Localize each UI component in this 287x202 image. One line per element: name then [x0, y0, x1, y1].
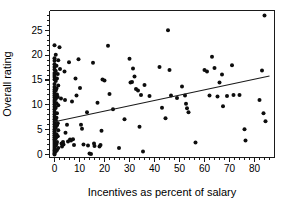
data-point [72, 143, 76, 147]
data-point [141, 150, 145, 154]
data-point [103, 79, 107, 83]
data-point [225, 94, 229, 98]
x-tick-label: 60 [199, 163, 211, 174]
data-point [230, 63, 234, 67]
data-point [216, 94, 220, 98]
data-point [54, 53, 58, 57]
x-axis-title: Incentives as percent of salary [88, 186, 237, 198]
data-points-layer [53, 13, 268, 156]
data-point [168, 68, 172, 72]
data-point [238, 93, 242, 97]
data-point [55, 64, 59, 68]
data-point [86, 144, 90, 148]
data-point [158, 65, 162, 69]
y-tick-label: 20 [31, 49, 43, 60]
data-point [106, 44, 110, 48]
data-point [56, 83, 60, 87]
data-point [260, 69, 264, 73]
data-point [128, 57, 132, 61]
data-point [82, 143, 86, 147]
data-point [89, 152, 93, 156]
data-point [79, 123, 83, 127]
x-tick-label: 70 [224, 163, 236, 174]
scatter-plot-figure: 010203040506070800510152025 Incentives a… [0, 0, 287, 202]
data-point [184, 102, 188, 106]
data-point [77, 57, 81, 61]
data-point [56, 58, 60, 62]
y-axis-title: Overall rating [1, 51, 13, 116]
trendline-layer [55, 76, 270, 122]
data-point [67, 60, 71, 64]
data-point [71, 137, 75, 141]
data-point [58, 67, 62, 71]
data-point [108, 92, 112, 96]
data-point [208, 93, 212, 97]
data-point [123, 117, 127, 121]
data-point [258, 98, 262, 102]
data-point [55, 116, 59, 120]
data-point [55, 111, 59, 115]
scatter-plot-canvas: 010203040506070800510152025 Incentives a… [0, 0, 287, 202]
x-tick-label: 30 [124, 163, 136, 174]
data-point [70, 99, 74, 103]
data-point [75, 93, 79, 97]
data-point [58, 45, 62, 49]
data-point [221, 104, 225, 108]
x-tick-label: 10 [74, 163, 86, 174]
data-point [130, 80, 134, 84]
data-point [263, 13, 267, 17]
data-point [85, 110, 89, 114]
data-point [194, 141, 198, 145]
data-point [160, 106, 164, 110]
data-point [63, 98, 67, 102]
data-point [213, 66, 217, 70]
data-point [164, 116, 168, 120]
data-point [63, 70, 67, 74]
data-point [131, 67, 135, 71]
data-point [55, 140, 59, 144]
data-point [138, 125, 142, 129]
plot-frame [50, 11, 275, 158]
data-point [143, 83, 147, 87]
data-point [96, 101, 100, 105]
data-point [117, 146, 121, 150]
data-point [62, 143, 66, 147]
data-point [53, 43, 57, 47]
data-point [55, 77, 59, 81]
data-point [53, 59, 57, 63]
data-point [262, 111, 266, 115]
y-tick-label: 5 [37, 124, 43, 135]
data-point [205, 70, 209, 74]
data-point [80, 127, 84, 131]
data-point [78, 86, 82, 90]
data-point [136, 88, 140, 92]
data-point [166, 28, 170, 32]
data-point [99, 143, 103, 147]
data-point [74, 77, 78, 81]
data-point [56, 103, 60, 107]
data-point [218, 81, 222, 85]
data-point [100, 129, 104, 133]
x-tick-label: 0 [52, 163, 58, 174]
data-point [180, 84, 184, 88]
data-point [185, 106, 189, 110]
x-tick-label: 40 [149, 163, 161, 174]
y-tick-label: 25 [31, 25, 43, 36]
x-tick-label: 20 [99, 163, 111, 174]
x-tick-label: 80 [249, 163, 261, 174]
data-point [210, 55, 214, 59]
data-point [139, 93, 143, 97]
regression-trendline [55, 76, 270, 122]
data-point [148, 94, 152, 98]
data-point [264, 119, 268, 123]
data-point [56, 146, 60, 150]
y-tick-label: 10 [31, 99, 43, 110]
data-point [56, 134, 60, 138]
data-point [93, 144, 97, 148]
data-point [133, 75, 137, 79]
data-point [220, 73, 224, 77]
data-point [56, 72, 60, 76]
data-point [64, 131, 68, 135]
y-tick-label: 15 [31, 74, 43, 85]
y-tick-label: 0 [37, 149, 43, 160]
